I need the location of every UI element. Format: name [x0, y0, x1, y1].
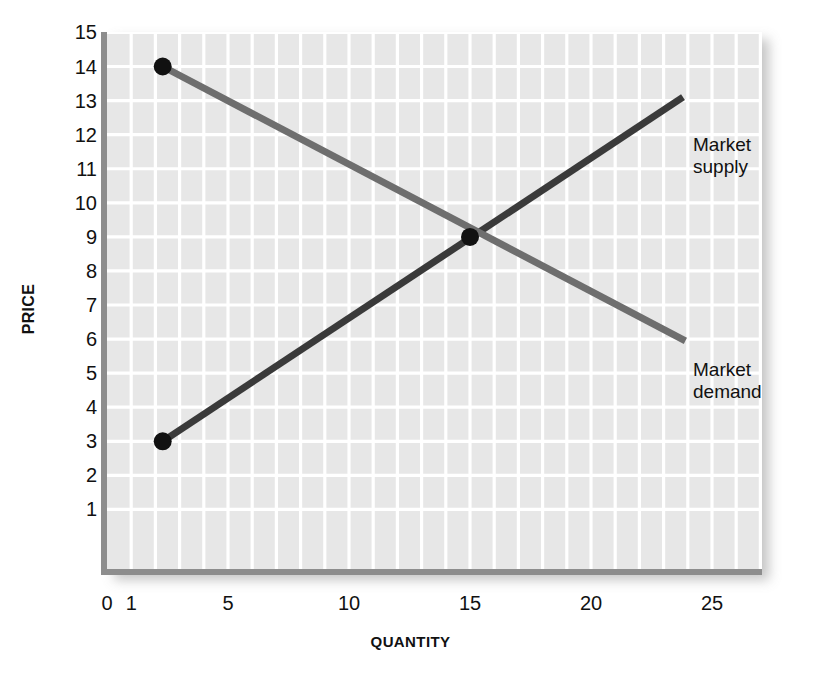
x-tick-label: 10 [327, 592, 371, 614]
gridlines [107, 32, 762, 573]
x-axis-spine [101, 569, 762, 575]
y-tick-label: 14 [51, 57, 97, 77]
y-tick-label: 2 [51, 465, 97, 485]
y-tick-label: 4 [51, 397, 97, 417]
supply-demand-chart: 151413121110987654321 01510152025 PRICE … [0, 0, 821, 683]
y-tick-label: 10 [51, 193, 97, 213]
y-tick-label: 13 [51, 91, 97, 111]
y-tick-labels: 151413121110987654321 [45, 0, 97, 683]
y-tick-label: 11 [51, 159, 97, 179]
y-tick-label: 6 [51, 329, 97, 349]
y-axis-spine [101, 32, 107, 575]
x-tick-label: 1 [109, 592, 153, 614]
x-tick-label: 25 [690, 592, 734, 614]
x-tick-label: 15 [448, 592, 492, 614]
x-tick-label: 20 [569, 592, 613, 614]
demand-curve-label: Market demand [693, 359, 762, 403]
y-tick-label: 15 [51, 22, 97, 42]
y-tick-label: 3 [51, 431, 97, 451]
y-axis-title: PRICE [20, 264, 38, 354]
y-tick-label: 9 [51, 227, 97, 247]
plot-area [107, 32, 762, 573]
y-tick-label: 8 [51, 261, 97, 281]
x-tick-label: 5 [206, 592, 250, 614]
x-axis-title: QUANTITY [0, 633, 821, 650]
y-tick-label: 7 [51, 295, 97, 315]
y-tick-label: 1 [51, 499, 97, 519]
supply-curve-label: Market supply [693, 134, 751, 178]
y-tick-label: 12 [51, 125, 97, 145]
y-tick-label: 5 [51, 363, 97, 383]
